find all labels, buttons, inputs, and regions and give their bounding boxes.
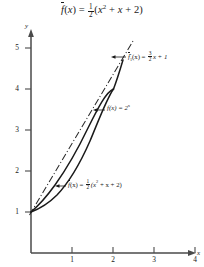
series-curve-fexp	[31, 89, 114, 212]
fexp-exponent: x	[128, 103, 130, 108]
y-tick-label-2: 2	[12, 167, 22, 174]
f1-slope-denominator: 2	[148, 56, 153, 62]
fbar-tail: + x + 2)	[98, 181, 122, 188]
f1-fbar-symbol: f̄	[128, 54, 130, 61]
annotation-fexp-label: f(x) = 2x	[107, 105, 130, 112]
y-tick-label-5: 5	[12, 44, 22, 51]
annotation-fbar-label: f(x) = 12(x2 + x + 2)	[68, 179, 122, 191]
f1-slope-fraction: 32	[148, 51, 153, 63]
series-curve-fbar	[31, 89, 114, 212]
x-axis-label: x	[197, 250, 200, 257]
y-axis-label: y	[25, 23, 28, 30]
annotation-f1-label: f̄1(x) = 32x + 1	[128, 51, 167, 63]
x-tick-label-4: 4	[190, 256, 200, 263]
fbar-arg: (x) =	[70, 181, 85, 188]
x-tick-label-2: 2	[108, 256, 118, 263]
plot-svg	[0, 0, 204, 267]
series-curve-upper-continuation	[114, 60, 124, 89]
y-tick-label-1: 1	[12, 208, 22, 215]
fbar-denominator: 2	[86, 184, 91, 190]
f1-arg: (x) =	[132, 53, 147, 60]
fbar-half-fraction: 12	[86, 179, 91, 191]
fbar-symbol: f	[68, 182, 70, 189]
x-tick-label-3: 3	[149, 256, 159, 263]
y-tick-label-3: 3	[12, 126, 22, 133]
y-axis	[25, 29, 34, 253]
figure-container: f(x) = 12(x2 + x + 2)	[0, 0, 204, 267]
x-tick-label-1: 1	[67, 256, 77, 263]
f1-tail: x + 1	[153, 53, 167, 60]
fexp-text: f(x) = 2	[107, 104, 128, 111]
y-tick-label-4: 4	[12, 85, 22, 92]
